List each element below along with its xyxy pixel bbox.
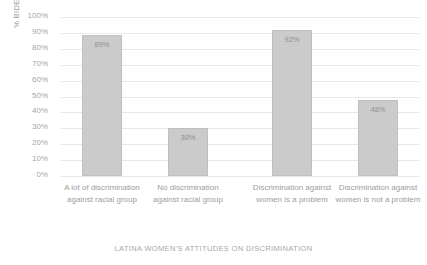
y-tick-label: 70% xyxy=(14,59,48,68)
y-tick-label: 90% xyxy=(14,27,48,36)
bar-chart: % BIDEN VOTERS 0%10%20%30%40%50%60%70%80… xyxy=(0,0,427,265)
bar[interactable]: 92% xyxy=(272,30,312,176)
bar-value-label: 30% xyxy=(169,133,207,142)
bar[interactable]: 89% xyxy=(82,35,122,177)
category-label: Discrimination against women is a proble… xyxy=(249,182,335,205)
bar-value-label: 92% xyxy=(273,35,311,44)
x-axis-title: LATINA WOMEN'S ATTITUDES ON DISCRIMINATI… xyxy=(0,244,427,253)
y-tick-label: 50% xyxy=(14,91,48,100)
bars-layer: 89%30%92%48% xyxy=(61,17,419,176)
y-tick-label: 80% xyxy=(14,43,48,52)
gridline xyxy=(61,176,419,177)
bar[interactable]: 30% xyxy=(168,128,208,176)
y-tick-label: 30% xyxy=(14,122,48,131)
y-tick-label: 20% xyxy=(14,138,48,147)
y-tick-label: 0% xyxy=(14,170,48,179)
bar-value-label: 89% xyxy=(83,40,121,49)
category-label: Discrimination against women is not a pr… xyxy=(335,182,421,205)
bar-value-label: 48% xyxy=(359,105,397,114)
y-tick-label: 100% xyxy=(14,11,48,20)
plot-area: 0%10%20%30%40%50%60%70%80%90%100% 89%30%… xyxy=(61,17,419,176)
y-tick-label: 60% xyxy=(14,75,48,84)
bar[interactable]: 48% xyxy=(358,100,398,176)
category-labels: A lot of discrimination against racial g… xyxy=(61,182,419,240)
category-label: No discrimination against racial group xyxy=(145,182,231,205)
y-tick-label: 10% xyxy=(14,154,48,163)
category-label: A lot of discrimination against racial g… xyxy=(59,182,145,205)
y-tick-label: 40% xyxy=(14,106,48,115)
